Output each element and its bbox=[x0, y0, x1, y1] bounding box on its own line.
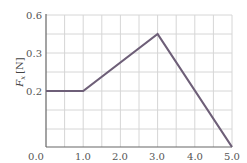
x-tick-label: 4.0 bbox=[187, 151, 203, 162]
x-tick-label: 0.0 bbox=[28, 151, 44, 162]
x-tick-label: 5.0 bbox=[224, 151, 240, 162]
force-position-chart: 0.6 0.3 0.2 0.0 1.0 2.0 3.0 4.0 5.0 x [m… bbox=[0, 0, 247, 163]
x-tick-label: 1.0 bbox=[75, 151, 91, 162]
y-tick-label: 0.6 bbox=[26, 10, 42, 21]
y-axis-label: Fx[N] bbox=[14, 57, 27, 88]
x-tick-label: 2.0 bbox=[112, 151, 128, 162]
y-tick-label: 0.3 bbox=[26, 48, 42, 59]
y-tick-label: 0.2 bbox=[26, 86, 42, 97]
y-axis-sub: x bbox=[19, 76, 27, 80]
grid bbox=[46, 15, 232, 147]
x-tick-label: 3.0 bbox=[149, 151, 165, 162]
y-axis-unit: [N] bbox=[14, 57, 25, 74]
